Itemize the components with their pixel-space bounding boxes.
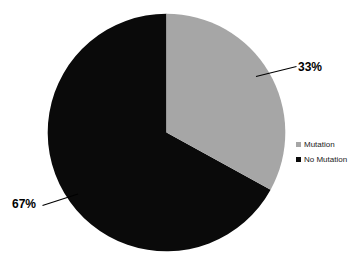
legend-item-mutation[interactable]: Mutation xyxy=(296,140,347,149)
legend-swatch-no-mutation-icon xyxy=(296,157,301,162)
data-label-mutation: 33% xyxy=(298,61,322,73)
chart-legend: Mutation No Mutation xyxy=(296,140,347,164)
legend-swatch-mutation-icon xyxy=(296,142,301,147)
legend-label-no-mutation: No Mutation xyxy=(304,155,347,164)
pie-chart-figure: 33% 67% Mutation No Mutation xyxy=(0,0,360,259)
data-label-no-mutation: 67% xyxy=(12,198,36,210)
pie-chart-canvas xyxy=(0,0,360,259)
legend-item-no-mutation[interactable]: No Mutation xyxy=(296,155,347,164)
legend-label-mutation: Mutation xyxy=(304,140,335,149)
